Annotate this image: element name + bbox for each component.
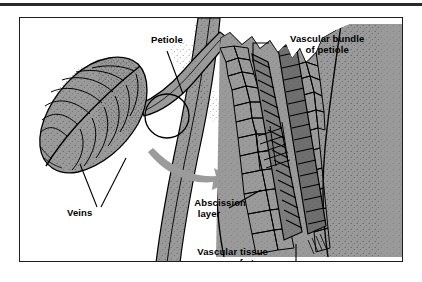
leaf-shape	[30, 48, 160, 183]
label-vascular-bundle: Vascular bundle of petiole	[290, 34, 364, 56]
label-vascular-stem-line2: of stem	[162, 258, 268, 262]
label-veins-text: Veins	[67, 207, 92, 218]
veins-leader-left	[80, 164, 97, 207]
label-petiole: Petiole	[151, 35, 183, 46]
label-petiole-text: Petiole	[151, 34, 183, 45]
label-veins: Veins	[67, 208, 92, 219]
label-abscission-layer: Abscission layer	[172, 198, 246, 220]
label-vascular-tissue-stem: Vascular tissue of stem	[162, 247, 268, 262]
label-abscission-line2: layer	[172, 209, 246, 220]
figure-frame: Petiole Vascular bundle of petiole Veins…	[19, 17, 403, 262]
figure-page: Petiole Vascular bundle of petiole Veins…	[0, 0, 422, 282]
veins-leader-right	[101, 158, 126, 207]
habit-view-group	[30, 18, 238, 262]
label-vascular-bundle-line2: of petiole	[290, 45, 364, 56]
page-top-rule	[0, 3, 422, 6]
